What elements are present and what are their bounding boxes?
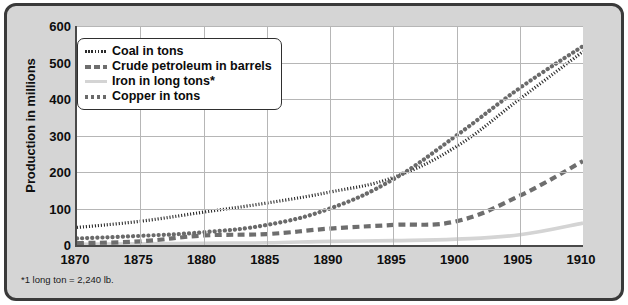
chart-screenshot: Production in millions 60050040030020010… xyxy=(0,0,628,305)
x-tick-label: 1900 xyxy=(425,252,485,267)
legend-label: Iron in long tons* xyxy=(112,75,215,88)
legend-swatch-coal-icon xyxy=(85,46,107,57)
legend-item-iron: Iron in long tons* xyxy=(85,74,272,89)
x-tick-label: 1880 xyxy=(172,252,232,267)
vertical-gridline xyxy=(457,26,458,245)
legend-label: Coal in tons xyxy=(112,45,184,58)
x-tick-label: 1890 xyxy=(298,252,358,267)
x-tick-label: 1885 xyxy=(235,252,295,267)
legend-swatch-copper-icon xyxy=(85,91,107,102)
x-tick-label: 1895 xyxy=(361,252,421,267)
x-axis-ticks: 187018751880188518901895190019051910 xyxy=(75,252,583,270)
x-tick-label: 1870 xyxy=(45,252,105,267)
y-tick-label: 400 xyxy=(13,93,71,106)
y-tick-label: 500 xyxy=(13,57,71,70)
x-tick-label: 1910 xyxy=(551,252,611,267)
chart-frame: Production in millions 60050040030020010… xyxy=(4,3,624,301)
y-axis-ticks: 6005004003002001000 xyxy=(11,26,71,247)
legend-swatch-crude-icon xyxy=(85,61,107,72)
vertical-gridline xyxy=(520,26,521,245)
x-tick-label: 1905 xyxy=(488,252,548,267)
legend-item-coal: Coal in tons xyxy=(85,44,272,59)
y-tick-label: 200 xyxy=(13,166,71,179)
chart-footnote: *1 long ton = 2,240 lb. xyxy=(21,274,114,285)
vertical-gridline xyxy=(330,26,331,245)
vertical-gridline xyxy=(393,26,394,245)
legend-item-copper: Copper in tons xyxy=(85,89,272,104)
legend-label: Crude petroleum in barrels xyxy=(112,60,272,73)
y-tick-label: 300 xyxy=(13,130,71,143)
y-tick-label: 0 xyxy=(13,239,71,252)
x-tick-label: 1875 xyxy=(108,252,168,267)
y-tick-label: 600 xyxy=(13,20,71,33)
legend-label: Copper in tons xyxy=(112,90,200,103)
legend-item-crude: Crude petroleum in barrels xyxy=(85,59,272,74)
chart-legend: Coal in tonsCrude petroleum in barrelsIr… xyxy=(77,38,282,110)
legend-swatch-iron-icon xyxy=(85,76,107,87)
y-tick-label: 100 xyxy=(13,203,71,216)
